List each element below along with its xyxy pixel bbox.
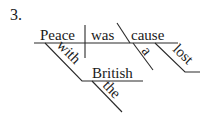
article-a-word: a (139, 43, 156, 58)
predicate-nominative-divider (117, 23, 130, 43)
verb-word: was (91, 27, 114, 43)
predicate-nominative-word: cause (131, 27, 165, 43)
adjective-lost-word: lost (170, 41, 197, 68)
sentence-diagram: Peace was cause a lost with British the (0, 0, 212, 118)
